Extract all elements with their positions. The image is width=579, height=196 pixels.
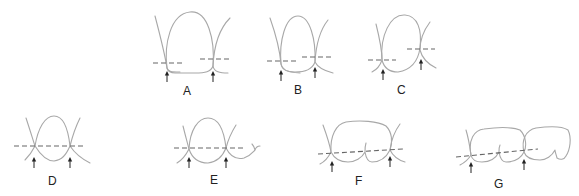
left-contact-arrow-icon	[381, 69, 385, 80]
center-tooth-outline	[189, 118, 226, 163]
left-contact-arrow-icon	[330, 161, 334, 172]
panel-label-d: D	[48, 174, 57, 188]
left-neighbor-outline	[460, 130, 471, 165]
right-contact-arrow-icon	[419, 59, 423, 70]
panel-g: G	[456, 127, 570, 191]
right-neighbor-outline	[70, 118, 90, 163]
left-neighbor-outline	[25, 118, 35, 160]
right-contact-arrow-icon	[522, 159, 526, 170]
panel-a: A	[153, 12, 230, 98]
panel-label-f: F	[355, 174, 362, 188]
panel-f: F	[318, 121, 405, 188]
right-neighbor-outline	[213, 18, 230, 73]
center-tooth-outline	[35, 116, 70, 161]
panel-label-a: A	[183, 84, 191, 98]
panel-label-b: B	[294, 83, 302, 97]
panel-d: D	[14, 116, 90, 188]
right-contact-arrow-icon	[211, 71, 215, 82]
right-neighbor-outline	[315, 20, 333, 73]
panel-label-c: C	[397, 83, 406, 97]
left-contact-arrow-icon	[165, 71, 169, 82]
right-contact-arrow-icon	[388, 156, 392, 167]
panel-label-g: G	[494, 177, 503, 191]
left-contact-arrow-icon	[469, 162, 473, 173]
left-neighbor-outline	[177, 126, 189, 163]
right-contact-arrow-icon	[224, 157, 228, 168]
panel-e: E	[174, 118, 260, 187]
center-tooth-outline	[382, 15, 421, 72]
center-tooth-outline	[166, 12, 213, 73]
center-molar-outline	[331, 121, 392, 162]
right-contact-arrow-icon	[313, 67, 317, 78]
right-tooth-outline	[226, 125, 260, 159]
contact-diagram: A B C D E	[0, 0, 579, 196]
left-neighbor-outline	[270, 18, 300, 73]
center-tooth-outline	[281, 16, 315, 72]
left-neighbor-outline	[320, 125, 331, 164]
left-neighbor-outline	[372, 24, 382, 72]
right-neighbor-outline	[420, 22, 436, 68]
left-contact-arrow-icon	[279, 70, 283, 81]
left-contact-arrow-icon	[32, 157, 36, 168]
left-contact-arrow-icon	[187, 157, 191, 168]
right-neighbor-outline	[390, 124, 405, 162]
panel-c: C	[368, 15, 436, 97]
first-molar-outline	[470, 128, 525, 162]
right-contact-arrow-icon	[68, 157, 72, 168]
panel-b: B	[267, 16, 333, 97]
second-molar-outline	[523, 127, 570, 160]
panel-label-e: E	[210, 173, 218, 187]
